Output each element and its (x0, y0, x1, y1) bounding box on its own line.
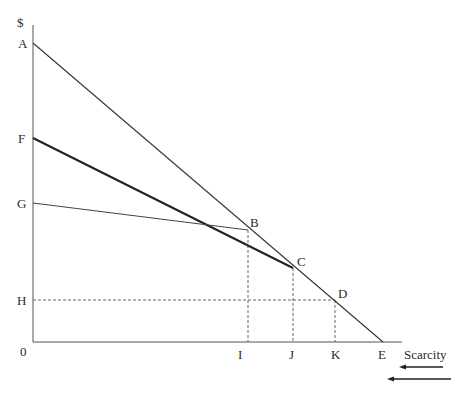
label-e: E (378, 347, 386, 362)
label-j: J (289, 347, 294, 362)
x-axis-label: Scarcity (404, 347, 447, 362)
label-b: B (250, 215, 259, 230)
label-g: G (17, 196, 26, 211)
label-d: D (338, 286, 347, 301)
origin-label: 0 (20, 344, 27, 359)
label-c: C (297, 254, 306, 269)
a-e-line (33, 43, 383, 342)
y-axis-label: $ (17, 15, 24, 30)
label-f: F (18, 131, 25, 146)
arrow-left-short-icon (399, 365, 443, 370)
label-h: H (17, 293, 26, 308)
arrow-left-long-icon (387, 377, 451, 382)
label-i: I (238, 347, 242, 362)
label-k: K (331, 347, 341, 362)
label-a: A (18, 36, 28, 51)
f-c-line (33, 138, 293, 268)
g-b-line (33, 203, 248, 230)
scarcity-diagram: $ A F G H 0 B C D I J K E Scarcity (0, 0, 463, 396)
